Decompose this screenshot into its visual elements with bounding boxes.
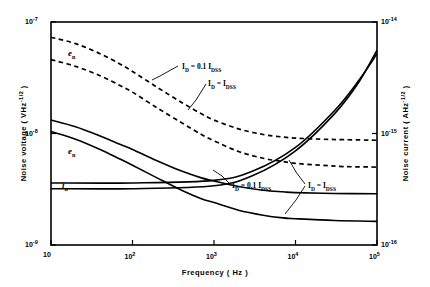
label-en-dashed: en bbox=[68, 48, 75, 60]
noise-chart-figure: Noise voltage ( VHz-1/2 ) Noise current … bbox=[0, 0, 430, 287]
x-tick-label-2: 103 bbox=[206, 251, 217, 260]
ann-in-solid-upper: ID = 0.1 IDSS bbox=[232, 181, 271, 192]
leader-line-1 bbox=[188, 84, 206, 110]
label-en-solid: en bbox=[68, 146, 75, 158]
plot-frame bbox=[51, 22, 377, 245]
tick-marks bbox=[51, 22, 377, 245]
x-tick-label-4: 105 bbox=[369, 251, 380, 260]
y-tick-label-right-2: 10-16 bbox=[381, 239, 397, 248]
curve-en_solid_Idss bbox=[51, 132, 377, 222]
plot-area bbox=[0, 0, 430, 287]
leader-line-0 bbox=[152, 66, 178, 80]
ann-in-solid-lower: ID = IDSS bbox=[308, 181, 336, 192]
y-tick-label-left-0: 10-7 bbox=[25, 16, 38, 25]
y-tick-label-left-1: 10-8 bbox=[25, 128, 38, 137]
x-tick-label-1: 102 bbox=[125, 251, 136, 260]
leader-line-4 bbox=[285, 186, 305, 214]
x-axis-label: Frequency ( Hz ) bbox=[140, 268, 290, 277]
x-tick-label-0: 10 bbox=[43, 251, 51, 258]
label-in-solid: in bbox=[62, 180, 68, 192]
y-tick-label-right-0: 10-14 bbox=[381, 16, 397, 25]
y-tick-label-left-2: 10-9 bbox=[25, 239, 38, 248]
y-tick-label-right-1: 10-15 bbox=[381, 128, 397, 137]
y-axis-label-right: Noise current ( AHz-1/2 ) bbox=[400, 58, 411, 208]
curve-en_Idss bbox=[51, 60, 377, 167]
ann-en-dashed-lower: ID = IDSS bbox=[208, 79, 236, 90]
curve-in_0.1Idss bbox=[51, 54, 377, 183]
x-tick-label-3: 104 bbox=[288, 251, 299, 260]
ann-en-dashed-upper: ID = 0.1 IDSS bbox=[182, 62, 221, 73]
